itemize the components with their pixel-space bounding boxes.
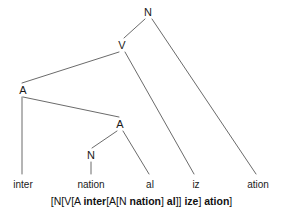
tree-node-a-3: A	[116, 119, 124, 130]
bracket-segment-7: ize	[184, 195, 198, 207]
edge-v-iz	[125, 52, 194, 174]
tree-leaf-nation: nation	[77, 180, 104, 190]
bracket-segment-9: ation	[204, 195, 229, 207]
tree-node-a-2: A	[19, 85, 27, 96]
tree-leaf-al: al	[146, 180, 154, 190]
edge-ain-al	[123, 131, 149, 174]
bracket-segment-3: nation	[130, 195, 162, 207]
tree-leaf-ation: ation	[247, 180, 269, 190]
bracket-segment-5: al	[167, 195, 176, 207]
tree-node-v-1: V	[118, 40, 126, 51]
tree-leaf-iz: iz	[192, 180, 199, 190]
morphological-tree-diagram: NVAAN internationalization [N[V[A inter[…	[0, 0, 283, 216]
tree-node-n-4: N	[87, 150, 95, 161]
bracket-notation: [N[V[A inter[A[N nation] al]] ize] ation…	[51, 195, 233, 208]
edge-v-a	[22, 52, 119, 83]
bracket-segment-10: ]	[229, 195, 232, 207]
tree-edges-svg	[0, 0, 283, 216]
edge-root-ation	[152, 19, 256, 174]
bracket-segment-0: [N[V[A	[51, 195, 84, 207]
bracket-segment-1: inter	[83, 195, 106, 207]
edge-ain-n	[92, 131, 117, 148]
edge-a-ain	[23, 97, 119, 117]
tree-node-n-0: N	[144, 7, 152, 18]
bracket-segment-2: [A[N	[106, 195, 129, 207]
edge-root-v	[124, 19, 145, 38]
tree-leaf-inter: inter	[13, 180, 32, 190]
bracket-segment-6: ]]	[176, 195, 185, 207]
tree-edge-group	[22, 19, 256, 174]
